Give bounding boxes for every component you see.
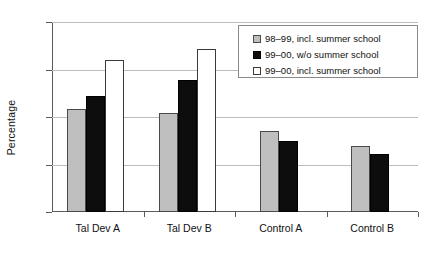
bar bbox=[178, 80, 197, 212]
y-axis-title: Percentage bbox=[0, 0, 22, 255]
gridline bbox=[52, 22, 418, 23]
bar bbox=[351, 146, 370, 213]
x-tick-mark bbox=[144, 212, 145, 217]
legend-swatch-icon bbox=[253, 51, 261, 59]
legend-swatch-icon bbox=[253, 35, 261, 43]
legend-item-label: 98–99, incl. summer school bbox=[265, 33, 381, 44]
x-axis-label: Control A bbox=[235, 222, 327, 234]
x-tick-mark bbox=[235, 212, 236, 217]
x-axis-label: Tal Dev A bbox=[52, 222, 144, 234]
x-axis-label: Control B bbox=[327, 222, 419, 234]
legend: 98–99, incl. summer school99–00, w/o sum… bbox=[238, 25, 418, 78]
y-tick-mark bbox=[46, 212, 52, 213]
legend-item-label: 99–00, incl. summer school bbox=[265, 65, 381, 76]
legend-item-label: 99–00, w/o summer school bbox=[265, 49, 379, 60]
bar bbox=[67, 109, 86, 212]
bar bbox=[279, 141, 298, 212]
legend-item: 99–00, w/o summer school bbox=[253, 47, 417, 62]
bar bbox=[370, 154, 389, 212]
legend-item: 98–99, incl. summer school bbox=[253, 31, 417, 46]
x-tick-mark bbox=[327, 212, 328, 217]
x-axis-label: Tal Dev B bbox=[144, 222, 236, 234]
bar bbox=[86, 96, 105, 212]
bar bbox=[197, 49, 216, 212]
legend-item: 99–00, incl. summer school bbox=[253, 63, 417, 78]
bar bbox=[159, 113, 178, 212]
legend-swatch-icon bbox=[253, 67, 261, 75]
x-tick-mark bbox=[418, 212, 419, 217]
bar-chart: Percentage 020406080 Tal Dev ATal Dev BC… bbox=[0, 0, 432, 255]
bar bbox=[260, 131, 279, 212]
bar bbox=[105, 60, 124, 212]
